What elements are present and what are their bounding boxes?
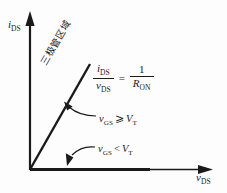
on-state-relation: ⩾ [115, 113, 124, 124]
on-state-variable-subscript: GS [104, 119, 113, 127]
slope-ratio-fraction: iDS vDS [93, 62, 114, 94]
slope-ratio-denominator: vDS [93, 79, 114, 95]
off-state-leader-curve [72, 147, 95, 155]
equals-sign: = [119, 73, 125, 84]
off-state-leader-arrow [66, 147, 95, 166]
off-state-variable-subscript: GS [103, 149, 112, 157]
y-axis-label: iDS [8, 19, 21, 33]
conductance-denominator-subscript: ON [140, 84, 151, 93]
conductance-fraction: 1 RON [130, 63, 154, 93]
slope-equation: iDS vDS = 1 RON [93, 62, 154, 94]
y-axis-arrowhead [25, 11, 34, 26]
conductance-numerator: 1 [136, 63, 148, 76]
conductance-denominator: RON [130, 77, 154, 93]
off-state-annotation: vGS<VT [98, 143, 133, 157]
off-state-relation: < [114, 143, 120, 154]
x-axis-label: vDS [196, 172, 211, 186]
on-state-threshold-subscript: T [132, 119, 136, 127]
figure-canvas [0, 0, 227, 193]
on-state-annotation: vGS⩾VT [99, 112, 137, 127]
conductance-denominator-main: R [133, 77, 140, 89]
slope-ratio-denominator-subscript: DS [101, 85, 111, 94]
on-state-leader-curve [69, 107, 96, 116]
x-axis-label-subscript: DS [201, 177, 211, 186]
off-state-threshold-subscript: T [128, 149, 132, 157]
y-axis-label-subscript: DS [11, 24, 21, 33]
x-axis [30, 165, 213, 174]
slope-ratio-numerator-subscript: DS [100, 68, 110, 77]
triode-region-line [30, 64, 90, 170]
y-axis [25, 11, 34, 170]
mosfet-triode-region-figure: iDS vDS 三极管区域 iDS vDS = 1 RON vGS⩾VT vGS… [0, 0, 227, 193]
slope-ratio-numerator: iDS [94, 62, 113, 78]
